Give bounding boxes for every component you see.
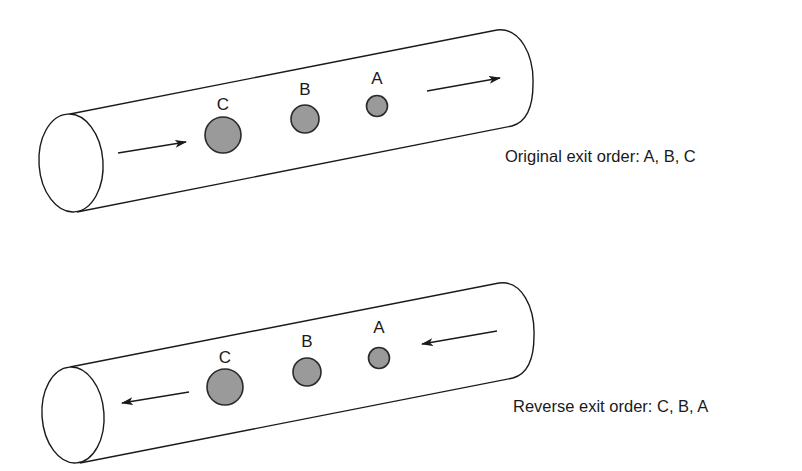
panel-original: C B A Original exit order: A, B, C (36, 30, 696, 214)
particle-a: A (369, 318, 390, 369)
particle-b-label: B (301, 332, 312, 351)
particle-c-circle (207, 369, 243, 405)
flow-arrow-out (427, 78, 500, 91)
tube-bottom-edge (77, 126, 512, 212)
tube-right-end (497, 30, 533, 126)
particle-b: B (293, 332, 321, 386)
tube-top-edge (70, 30, 497, 114)
tube-reverse (39, 283, 534, 465)
tube-left-opening (39, 365, 108, 465)
exit-order-diagram: C B A Original exit order: A, B, C C B (0, 0, 802, 471)
particle-c-circle (205, 117, 241, 153)
particle-a-circle (369, 348, 390, 369)
tube-right-end (499, 283, 534, 378)
flow-arrow-out (122, 392, 189, 403)
particle-a-label: A (373, 318, 385, 337)
caption-reverse: Reverse exit order: C, B, A (513, 397, 708, 415)
flow-arrow-in (422, 331, 497, 344)
caption-original: Original exit order: A, B, C (505, 147, 696, 165)
tube-bottom-edge (80, 378, 513, 463)
tube-left-opening (36, 112, 107, 214)
tube-original (36, 30, 533, 214)
flow-arrow-in (118, 142, 186, 153)
tube-top-edge (70, 283, 499, 367)
particle-b: B (291, 80, 319, 133)
particle-b-circle (293, 358, 321, 386)
particle-a-label: A (371, 69, 383, 88)
particle-c-label: C (217, 95, 229, 114)
particle-b-circle (291, 105, 319, 133)
particle-c-label: C (219, 348, 231, 367)
particle-b-label: B (299, 80, 310, 99)
particle-c: C (207, 348, 243, 405)
particle-a-circle (367, 96, 388, 117)
particle-c: C (205, 95, 241, 153)
panel-reverse: C B A Reverse exit order: C, B, A (39, 283, 709, 465)
particle-a: A (367, 69, 388, 117)
